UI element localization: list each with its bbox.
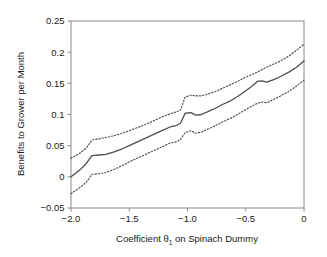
x-axis-title-tail: on Spinach Dummy (172, 233, 258, 244)
x-tick-label: −1.5 (120, 213, 139, 224)
line-chart: −0.0500.050.10.150.20.25 −2.0−1.5−1.0−0.… (0, 0, 327, 257)
y-tick-label: 0 (59, 171, 64, 182)
y-axis-title: Benefits to Grower per Month (15, 52, 26, 176)
x-tick-label: −2.0 (62, 213, 81, 224)
plot-background (71, 21, 304, 208)
x-tick-label: −0.5 (236, 213, 255, 224)
x-axis-title-text: Coefficient θ1 on Spinach Dummy (116, 233, 258, 246)
y-tick-label: 0.1 (51, 109, 64, 120)
x-axis-ticks: −2.0−1.5−1.0−0.50 (62, 208, 307, 224)
x-tick-label: −1.0 (178, 213, 197, 224)
y-axis-ticks: −0.0500.050.10.150.20.25 (40, 15, 71, 213)
y-tick-label: 0.05 (46, 140, 65, 151)
x-axis-title-main: Coefficient θ (116, 233, 169, 244)
y-tick-label: 0.2 (51, 47, 64, 58)
chart-figure: −0.0500.050.10.150.20.25 −2.0−1.5−1.0−0.… (0, 0, 327, 257)
x-tick-label: 0 (301, 213, 306, 224)
y-tick-label: −0.05 (40, 202, 64, 213)
y-tick-label: 0.25 (46, 15, 65, 26)
x-axis-title: Coefficient θ1 on Spinach Dummy (116, 233, 258, 246)
y-tick-label: 0.15 (46, 78, 65, 89)
